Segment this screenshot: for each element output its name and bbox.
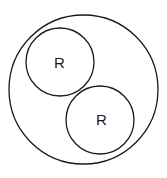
radius-label-top-left: R [54, 54, 65, 71]
circles-diagram: R R [0, 0, 167, 178]
radius-label-bottom-right: R [96, 111, 107, 128]
